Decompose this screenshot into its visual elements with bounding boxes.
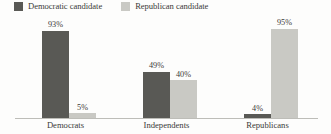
bar-value-independents-democratic-candidate: 49% xyxy=(149,61,164,71)
bar-value-independents-republican-candidate: 40% xyxy=(176,70,191,80)
bar-value-democrats-democratic-candidate: 93% xyxy=(48,20,63,30)
plot-area: 93% 5% Democrats 49% 40% Independents 4%… xyxy=(15,24,318,119)
bar-value-democrats-republican-candidate: 5% xyxy=(77,103,88,113)
bar-group-republicans: 4% 95% Republicans xyxy=(217,24,318,118)
bar-group-democrats: 93% 5% Democrats xyxy=(15,24,116,118)
legend-entry-democratic-candidate: Democratic candidate xyxy=(14,2,102,11)
bar-independents-republican-candidate: 40% xyxy=(170,80,197,118)
legend-swatch-democratic-candidate xyxy=(14,2,23,11)
bar-value-republicans-republican-candidate: 95% xyxy=(277,18,292,28)
legend-label-republican-candidate: Republican candidate xyxy=(135,2,208,11)
grouped-bar-chart: Democratic candidate Republican candidat… xyxy=(0,0,331,134)
bar-group-independents: 49% 40% Independents xyxy=(116,24,217,118)
bar-value-republicans-democratic-candidate: 4% xyxy=(252,104,263,114)
category-label-democrats: Democrats xyxy=(15,118,116,132)
legend-swatch-republican-candidate xyxy=(121,2,130,11)
chart-legend: Democratic candidate Republican candidat… xyxy=(14,2,208,11)
category-label-independents: Independents xyxy=(116,118,217,132)
bar-republicans-republican-candidate: 95% xyxy=(271,29,298,118)
legend-label-democratic-candidate: Democratic candidate xyxy=(28,2,102,11)
category-label-republicans: Republicans xyxy=(217,118,318,132)
bar-democrats-democratic-candidate: 93% xyxy=(42,31,69,118)
legend-entry-republican-candidate: Republican candidate xyxy=(121,2,208,11)
bar-independents-democratic-candidate: 49% xyxy=(143,72,170,118)
